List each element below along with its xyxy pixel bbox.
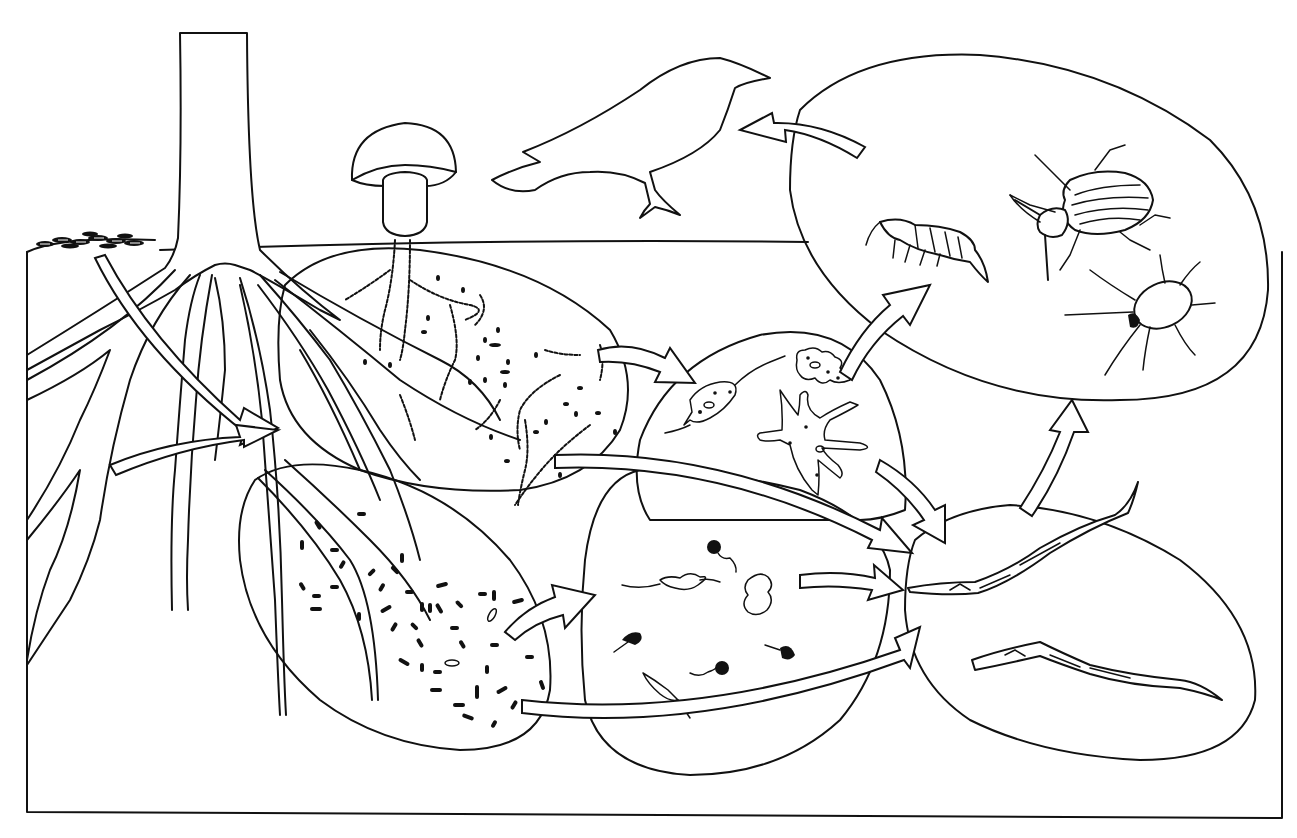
beetle-icon: [1010, 145, 1170, 280]
bacteria-icon: [298, 512, 545, 728]
soil-food-web-diagram: [0, 0, 1297, 838]
diagram-canvas: [0, 0, 1297, 838]
arrow-litter-to-plant: [95, 255, 278, 445]
arrow-nematodes-to-arthropods: [1020, 400, 1088, 516]
soil-frame: [27, 241, 1282, 818]
amoeba-icon: [758, 390, 868, 495]
nematode-zone: [905, 482, 1255, 760]
bird-icon: [492, 58, 770, 218]
arrow-fungi-to-nematodes: [555, 454, 912, 553]
arrow-arthropods-to-birds: [740, 113, 865, 158]
mite-icon: [1065, 255, 1215, 375]
leaf-litter-icon: [27, 232, 155, 253]
arrow-fungi-to-fungal-feeders: [598, 346, 695, 383]
bacteria-outline-cells: [445, 607, 498, 666]
springtail-icon: [866, 220, 988, 282]
arrow-fungal-feeders-to-arthropods: [840, 285, 930, 380]
nematode-icon: [908, 482, 1222, 700]
mushroom-icon: [352, 123, 456, 236]
arrow-protozoa-to-nematodes: [800, 565, 903, 600]
tree-roots-icon: [27, 33, 520, 715]
